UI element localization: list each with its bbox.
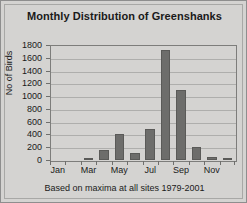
y-axis-tick-labels: 180016001400120010008006004002000 [1, 45, 47, 160]
bar [161, 50, 171, 160]
y-tick-label: 1600 [22, 53, 42, 62]
bar [84, 158, 94, 160]
y-tick-mark [46, 45, 50, 46]
chart-figure: Monthly Distribution of Greenshanks No o… [0, 0, 247, 203]
y-tick-mark [46, 83, 50, 84]
bar [99, 150, 109, 160]
x-tick-label: Nov [204, 165, 220, 176]
x-tick-label: May [111, 165, 128, 176]
y-tick-mark [46, 147, 50, 148]
x-tick-label: Jan [50, 165, 65, 176]
bar [176, 90, 186, 160]
x-tick-label: Jul [144, 165, 156, 176]
y-tick-mark [46, 160, 50, 161]
y-tick-label: 800 [27, 104, 42, 113]
y-tick-label: 1400 [22, 66, 42, 75]
y-tick-mark [46, 71, 50, 72]
x-tick-label: Mar [81, 165, 97, 176]
chart-caption: Based on maxima at all sites 1979-2001 [1, 183, 247, 193]
bar [145, 129, 155, 160]
bar [130, 153, 140, 160]
bar-series [50, 45, 235, 160]
y-tick-mark [46, 96, 50, 97]
y-tick-label: 1200 [22, 79, 42, 88]
y-tick-label: 400 [27, 130, 42, 139]
x-tick-label: Sep [173, 165, 189, 176]
y-tick-mark [46, 134, 50, 135]
y-tick-label: 200 [27, 143, 42, 152]
bar [115, 134, 125, 160]
y-tick-mark [46, 109, 50, 110]
y-tick-mark [46, 58, 50, 59]
chart-title: Monthly Distribution of Greenshanks [1, 10, 247, 22]
bar [192, 147, 202, 160]
y-tick-label: 600 [27, 117, 42, 126]
bar [207, 157, 217, 160]
y-tick-label: 1800 [22, 41, 42, 50]
y-tick-label: 1000 [22, 92, 42, 101]
bar [223, 158, 233, 160]
y-tick-label: 0 [37, 156, 42, 165]
y-tick-mark [46, 122, 50, 123]
x-axis-tick-labels: JanMarMayJulSepNov [50, 165, 235, 178]
